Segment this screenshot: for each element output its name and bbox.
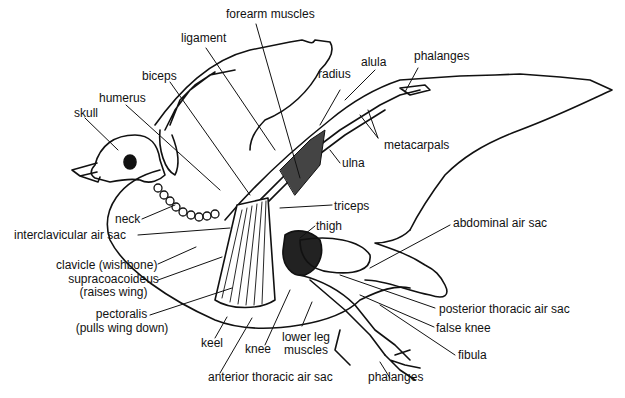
label-radius: radius [318, 68, 351, 81]
label-humerus: humerus [99, 92, 146, 105]
beak [72, 163, 100, 182]
neck-vertebrae [154, 184, 219, 221]
label-abdominal-air-sac: abdominal air sac [453, 217, 547, 230]
label-neck: neck [115, 213, 140, 226]
bird-anatomy-diagram: forearm muscles ligament biceps humerus … [0, 0, 625, 398]
label-phalanges-wing: phalanges [414, 50, 469, 63]
label-lower-leg-muscles-2: muscles [276, 344, 336, 357]
label-knee: knee [245, 343, 271, 356]
label-thigh: thigh [316, 220, 342, 233]
label-supracoacoideus-note: (raises wing) [66, 286, 161, 299]
raised-wing-outline [155, 40, 332, 150]
label-interclavicular-air-sac: interclavicular air sac [14, 229, 126, 242]
label-keel: keel [201, 337, 223, 350]
label-ligament: ligament [181, 32, 226, 45]
label-triceps: triceps [334, 200, 369, 213]
label-clavicle: clavicle (wishbone) [56, 259, 157, 272]
label-biceps: biceps [142, 70, 177, 83]
label-phalanges-foot: phalanges [368, 371, 423, 384]
label-anterior-thoracic-air-sac: anterior thoracic air sac [208, 371, 333, 384]
label-fibula: fibula [458, 349, 487, 362]
label-forearm-muscles: forearm muscles [226, 8, 315, 21]
label-pectoralis-note: (pulls wing down) [70, 322, 174, 335]
skull-eye [124, 155, 136, 169]
label-pectoralis: pectoralis [74, 308, 169, 321]
label-ulna: ulna [342, 157, 365, 170]
forearm-muscle [280, 130, 325, 195]
label-posterior-thoracic-air-sac: posterior thoracic air sac [439, 303, 570, 316]
label-metacarpals: metacarpals [384, 139, 449, 152]
extended-wing-leading [225, 74, 612, 230]
label-false-knee: false knee [436, 322, 491, 335]
label-alula: alula [361, 56, 386, 69]
label-skull: skull [74, 107, 98, 120]
